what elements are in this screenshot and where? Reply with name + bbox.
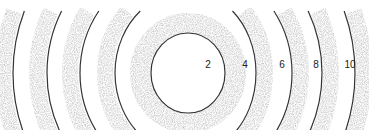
shade-band-left-6 bbox=[70, 11, 87, 135]
shade-band-right-4 bbox=[244, 11, 265, 135]
shade-band-right-6 bbox=[284, 11, 301, 135]
ring-label-8: 8 bbox=[313, 59, 319, 70]
central-circle bbox=[151, 33, 225, 113]
shade-band-left-8 bbox=[37, 11, 51, 135]
ring-label-6: 6 bbox=[279, 59, 285, 70]
ring-label-4: 4 bbox=[242, 59, 248, 70]
shade-band-right-10 bbox=[354, 11, 364, 135]
shade-band-left-10 bbox=[3, 11, 14, 135]
shade-band-right-8 bbox=[318, 11, 331, 135]
ring-label-10: 10 bbox=[344, 59, 356, 70]
shade-band-left-4 bbox=[105, 11, 127, 135]
ring-label-2: 2 bbox=[205, 59, 211, 70]
concentric-rings-diagram: 2 4 6 8 10 bbox=[0, 0, 369, 136]
